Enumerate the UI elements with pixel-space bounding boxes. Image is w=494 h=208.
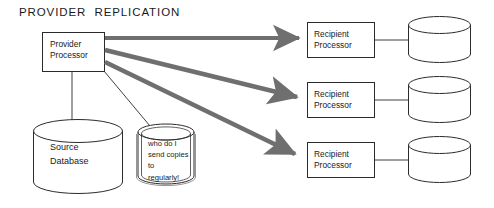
recipient-database-cylinder-1 <box>409 17 471 63</box>
recipient-processor-label-1: Recipient Processor <box>314 29 352 51</box>
diagram-canvas: PROVIDER REPLICATION <box>0 0 494 208</box>
recipient-database-cylinder-2 <box>409 77 471 123</box>
source-database-label: Source Database <box>50 141 89 168</box>
replication-arrow-3 <box>105 62 295 154</box>
thought-bubble-label: who do I send copies to regularly! <box>148 138 189 183</box>
recipient-database-cylinder-3 <box>409 137 471 183</box>
diagram-vector-layer <box>0 0 494 208</box>
recipient-processor-label-2: Recipient Processor <box>314 89 352 111</box>
provider-processor-label: Provider Processor <box>50 39 88 61</box>
recipient-processor-label-3: Recipient Processor <box>314 149 352 171</box>
